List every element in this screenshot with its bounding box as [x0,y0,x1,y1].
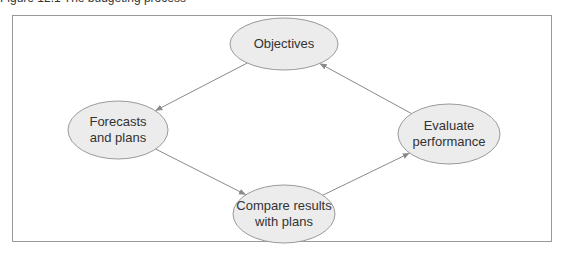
edges [155,63,411,195]
node-label-forecasts: Forecastsand plans [68,101,168,159]
arrow-objectives-to-forecasts [155,63,247,111]
node-label-objectives: Objectives [230,18,338,70]
node-label-evaluate: Evaluateperformance [398,104,500,164]
node-label-compare: Compare resultswith plans [233,185,335,243]
arrow-compare-to-evaluate [323,153,410,195]
